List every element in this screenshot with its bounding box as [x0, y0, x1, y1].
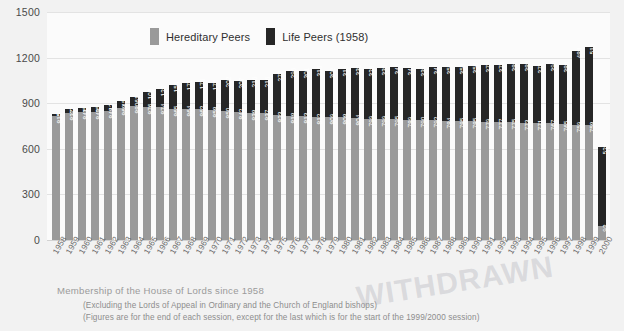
bar-segment-life-peers: 207 [234, 81, 242, 112]
bar-column[interactable]: 390767 [543, 12, 556, 240]
bar-stack: 178858 [208, 83, 216, 240]
bar-segment-life-peers: 61 [130, 97, 138, 106]
bar-column[interactable]: 335799 [374, 12, 387, 240]
bar-segment-life-peers: 345 [390, 67, 398, 119]
x-axis-label-cell: 1989 [452, 242, 465, 284]
bar-segment-life-peers: 176 [195, 82, 203, 109]
x-axis-label-cell: 1983 [374, 242, 387, 284]
x-axis-label-cell: 1980 [335, 242, 348, 284]
bar-value-label: 92 [602, 224, 610, 231]
chart-root: 030060090012001500 158152283725841358404… [0, 0, 624, 331]
bar-segment-life-peers: 330 [351, 68, 359, 118]
bar-column[interactable]: 216838 [244, 12, 257, 240]
bar-column[interactable]: 319808 [335, 12, 348, 240]
legend-item[interactable]: Life Peers (1958) [266, 28, 368, 45]
bar-segment-life-peers: 515 [585, 47, 593, 125]
bar-stack: 371771 [533, 66, 541, 240]
bar-column[interactable]: 358785 [465, 12, 478, 240]
bar-column[interactable]: 154865 [166, 12, 179, 240]
bar-series: 1581522837258413584042848458686188010087… [47, 12, 610, 240]
bar-stack: 52292 [598, 147, 606, 240]
bar-column[interactable]: 42848 [101, 12, 114, 240]
legend-item[interactable]: Hereditary Peers [150, 28, 250, 45]
bar-segment-life-peers: 216 [247, 80, 255, 113]
bar-column[interactable]: 25841 [75, 12, 88, 240]
bar-stack: 383773 [520, 64, 528, 240]
bar-column[interactable]: 372779 [478, 12, 491, 240]
bar-column[interactable]: 330804 [348, 12, 361, 240]
bar-column[interactable]: 176862 [192, 12, 205, 240]
bar-column[interactable]: 345795 [387, 12, 400, 240]
legend: Hereditary PeersLife Peers (1958) [150, 28, 368, 45]
bar-segment-life-peers: 100 [143, 92, 151, 107]
x-axis-label-cell: 1959 [62, 242, 75, 284]
bar-column[interactable]: 45868 [114, 12, 127, 240]
bar-column[interactable]: 340789 [400, 12, 413, 240]
bar-stack: 353785 [455, 67, 463, 240]
bar-segment-life-peers: 358 [468, 66, 476, 120]
bar-column[interactable]: 371771 [530, 12, 543, 240]
bar-segment-life-peers: 154 [169, 85, 177, 108]
bar-segment-life-peers: 216 [260, 80, 268, 113]
bar-column[interactable]: 353784 [439, 12, 452, 240]
bar-column[interactable]: 207842 [231, 12, 244, 240]
bar-column[interactable]: 22837 [62, 12, 75, 240]
bar-column[interactable]: 35840 [88, 12, 101, 240]
bar-column[interactable]: 178858 [205, 12, 218, 240]
bar-segment-hereditary-peers: 880 [130, 106, 138, 240]
bar-segment-hereditary-peers: 799 [377, 119, 385, 240]
bar-stack: 22837 [65, 109, 73, 240]
bar-column[interactable]: 301813 [296, 12, 309, 240]
bar-column[interactable]: 202850 [218, 12, 231, 240]
bar-column[interactable]: 484759 [569, 12, 582, 240]
bar-stack: 335799 [377, 68, 385, 240]
x-axis-label-cell: 1966 [153, 242, 166, 284]
footnote-session: (Figures are for the end of each session… [83, 312, 479, 324]
bar-segment-hereditary-peers: 841 [78, 112, 86, 240]
bar-column[interactable]: 171864 [179, 12, 192, 240]
bar-column[interactable]: 334790 [413, 12, 426, 240]
bar-segment-hereditary-peers: 818 [286, 116, 294, 240]
bar-column[interactable]: 52292 [595, 12, 608, 240]
bar-column[interactable]: 316812 [309, 12, 322, 240]
bar-segment-life-peers: 373 [494, 65, 502, 122]
bar-column[interactable]: 515758 [582, 12, 595, 240]
bar-column[interactable]: 386775 [504, 12, 517, 240]
bar-column[interactable]: 15815 [49, 12, 62, 240]
bar-segment-life-peers: 386 [507, 64, 515, 123]
bar-column[interactable]: 100876 [140, 12, 153, 240]
bar-column[interactable]: 346792 [426, 12, 439, 240]
x-axis-label-cell: 1958 [49, 242, 62, 284]
bar-column[interactable]: 388765 [556, 12, 569, 240]
bar-segment-life-peers: 346 [429, 67, 437, 120]
bar-segment-hereditary-peers: 785 [468, 121, 476, 240]
bar-column[interactable]: 61880 [127, 12, 140, 240]
x-axis-label-cell: 1975 [270, 242, 283, 284]
bar-segment-life-peers: 484 [572, 51, 580, 125]
x-axis-label-cell: 1992 [491, 242, 504, 284]
bar-column[interactable]: 353785 [452, 12, 465, 240]
x-axis-label-cell: 1982 [361, 242, 374, 284]
bar-segment-hereditary-peers: 837 [65, 113, 73, 240]
bar-column[interactable]: 373777 [491, 12, 504, 240]
bar-segment-hereditary-peers: 779 [481, 122, 489, 240]
bar-segment-hereditary-peers: 789 [403, 120, 411, 240]
x-axis-label-cell: 1991 [478, 242, 491, 284]
bar-segment-hereditary-peers: 799 [364, 119, 372, 240]
bar-stack: 388765 [559, 65, 567, 240]
bar-column[interactable]: 302809 [322, 12, 335, 240]
bar-column[interactable]: 383773 [517, 12, 530, 240]
bar-column[interactable]: 295818 [283, 12, 296, 240]
bar-column[interactable]: 120874 [153, 12, 166, 240]
x-axis-label-cell: 1971 [218, 242, 231, 284]
x-axis-label-cell: 1995 [530, 242, 543, 284]
bar-column[interactable]: 328799 [361, 12, 374, 240]
bar-segment-life-peers: 353 [455, 67, 463, 121]
y-axis-tick-1500: 1500 [0, 6, 40, 18]
bar-segment-life-peers: 390 [546, 64, 554, 123]
bar-segment-hereditary-peers: 784 [442, 121, 450, 240]
bar-column[interactable]: 272823 [270, 12, 283, 240]
bar-column[interactable]: 216837 [257, 12, 270, 240]
bar-segment-life-peers: 301 [299, 71, 307, 117]
bar-segment-life-peers: 383 [520, 64, 528, 122]
